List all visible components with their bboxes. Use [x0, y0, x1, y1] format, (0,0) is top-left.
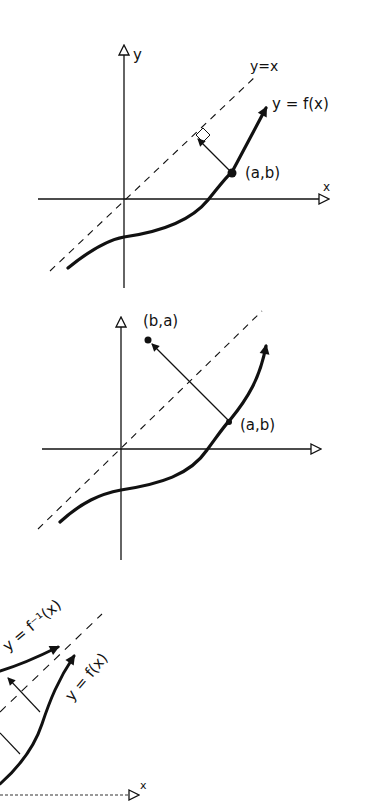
point-a-b	[226, 419, 232, 425]
curve-f-label: y = f(x)	[272, 95, 329, 113]
curve-f	[60, 346, 266, 522]
reflection-arrow	[8, 678, 40, 712]
panel-3: x y = f⁻¹(x) y = f(x)	[0, 596, 147, 795]
x-axis-label: x	[323, 180, 330, 194]
panel-2: (a,b) (b,a)	[38, 311, 320, 560]
point-a-b-label: (a,b)	[245, 164, 280, 182]
point-b-a-label: (b,a)	[143, 312, 178, 330]
identity-line	[50, 76, 256, 271]
x-axis-label: x	[140, 779, 147, 792]
curve-f-inverse-label: y = f⁻¹(x)	[0, 596, 65, 655]
point-b-a	[145, 337, 152, 344]
curve-f-label: y = f(x)	[61, 649, 111, 704]
inverse-function-diagram: y x y=x y = f(x) (a,b) (a,b) (b,a) x	[0, 0, 373, 801]
panel-1: y x y=x y = f(x) (a,b)	[38, 46, 330, 288]
curve-f	[0, 656, 74, 784]
perpendicular-arrow	[198, 139, 230, 171]
point-a-b-label: (a,b)	[240, 416, 275, 434]
curve-f	[68, 108, 266, 268]
identity-line-label: y=x	[250, 58, 278, 74]
y-axis-label: y	[133, 46, 142, 64]
reflection-segment	[0, 733, 20, 754]
